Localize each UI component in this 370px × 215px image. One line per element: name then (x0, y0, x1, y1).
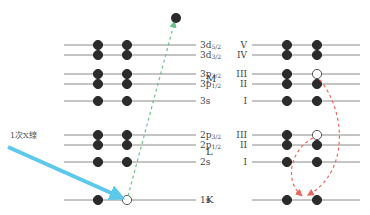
ejected-electron (171, 13, 181, 23)
electron (282, 40, 291, 49)
subshell-label: I (227, 96, 247, 106)
electron (122, 130, 131, 139)
subshell-label: II (227, 140, 247, 150)
primary-xray-arrow (8, 147, 118, 196)
energy-level-diagram (0, 0, 370, 215)
electron-hole (122, 195, 131, 204)
subshell-label: IV (227, 50, 247, 60)
electron (312, 50, 321, 59)
electron (282, 69, 291, 78)
electron (312, 140, 321, 149)
electron (93, 96, 102, 105)
electron (122, 69, 131, 78)
electron-hole (312, 130, 321, 139)
orbital-label-3d32: 3d3/2 (200, 50, 221, 62)
shell-label-L: L (206, 147, 213, 157)
electron (122, 140, 131, 149)
electron (282, 96, 291, 105)
electron (282, 140, 291, 149)
electron (93, 157, 102, 166)
electron (282, 79, 291, 88)
orbital-label-3s: 3s (200, 96, 210, 106)
electron-hole (312, 69, 321, 78)
transition-l3-to-k-arrow (291, 138, 313, 194)
electron (122, 157, 131, 166)
electron (312, 195, 321, 204)
subshell-label: I (227, 157, 247, 167)
electron (282, 195, 291, 204)
photoelectron-path-arrow (128, 24, 174, 196)
electron (122, 40, 131, 49)
electron (93, 79, 102, 88)
electron (282, 130, 291, 139)
subshell-label: V (227, 40, 247, 50)
electron (93, 130, 102, 139)
electron (122, 79, 131, 88)
electron (312, 96, 321, 105)
electron (282, 50, 291, 59)
electron (282, 157, 291, 166)
electron (122, 50, 131, 59)
electron (93, 195, 102, 204)
shell-label-K: K (206, 195, 213, 205)
primary-xray-label: 1次X線 (10, 131, 37, 141)
electron (93, 140, 102, 149)
electron (312, 157, 321, 166)
shell-label-M: M (206, 74, 216, 84)
electron (312, 40, 321, 49)
electron (93, 69, 102, 78)
orbital-label-2s: 2s (200, 157, 210, 167)
subshell-label: II (227, 79, 247, 89)
electron (93, 50, 102, 59)
subshell-label: III (227, 130, 247, 140)
electron (93, 40, 102, 49)
electron (122, 96, 131, 105)
subshell-label: III (227, 69, 247, 79)
